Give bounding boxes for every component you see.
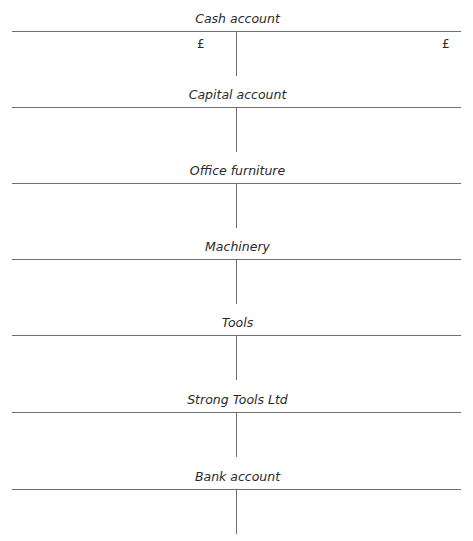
vertical-divider xyxy=(236,183,237,228)
vertical-divider xyxy=(236,412,237,457)
vertical-divider xyxy=(236,259,237,304)
credit-currency-header: £ xyxy=(442,37,450,51)
account-title: Office furniture xyxy=(12,164,462,178)
vertical-divider xyxy=(236,335,237,380)
vertical-divider xyxy=(236,489,237,534)
account-title: Strong Tools Ltd xyxy=(12,393,462,407)
t-account-bank: Bank account xyxy=(12,470,461,541)
vertical-divider xyxy=(236,107,237,152)
t-account-capital: Capital account xyxy=(12,88,461,164)
t-account-tools: Tools xyxy=(12,316,461,392)
debit-currency-header: £ xyxy=(197,37,205,51)
account-title: Bank account xyxy=(12,470,462,484)
account-title: Cash account xyxy=(12,12,462,26)
t-account-cash: Cash account £ £ xyxy=(12,12,461,88)
t-account-machinery: Machinery xyxy=(12,240,461,316)
account-title: Tools xyxy=(12,316,462,330)
t-account-strong-tools-ltd: Strong Tools Ltd xyxy=(12,393,461,469)
account-title: Machinery xyxy=(12,240,462,254)
vertical-divider xyxy=(236,31,237,76)
t-account-office-furniture: Office furniture xyxy=(12,164,461,240)
account-title: Capital account xyxy=(12,88,462,102)
